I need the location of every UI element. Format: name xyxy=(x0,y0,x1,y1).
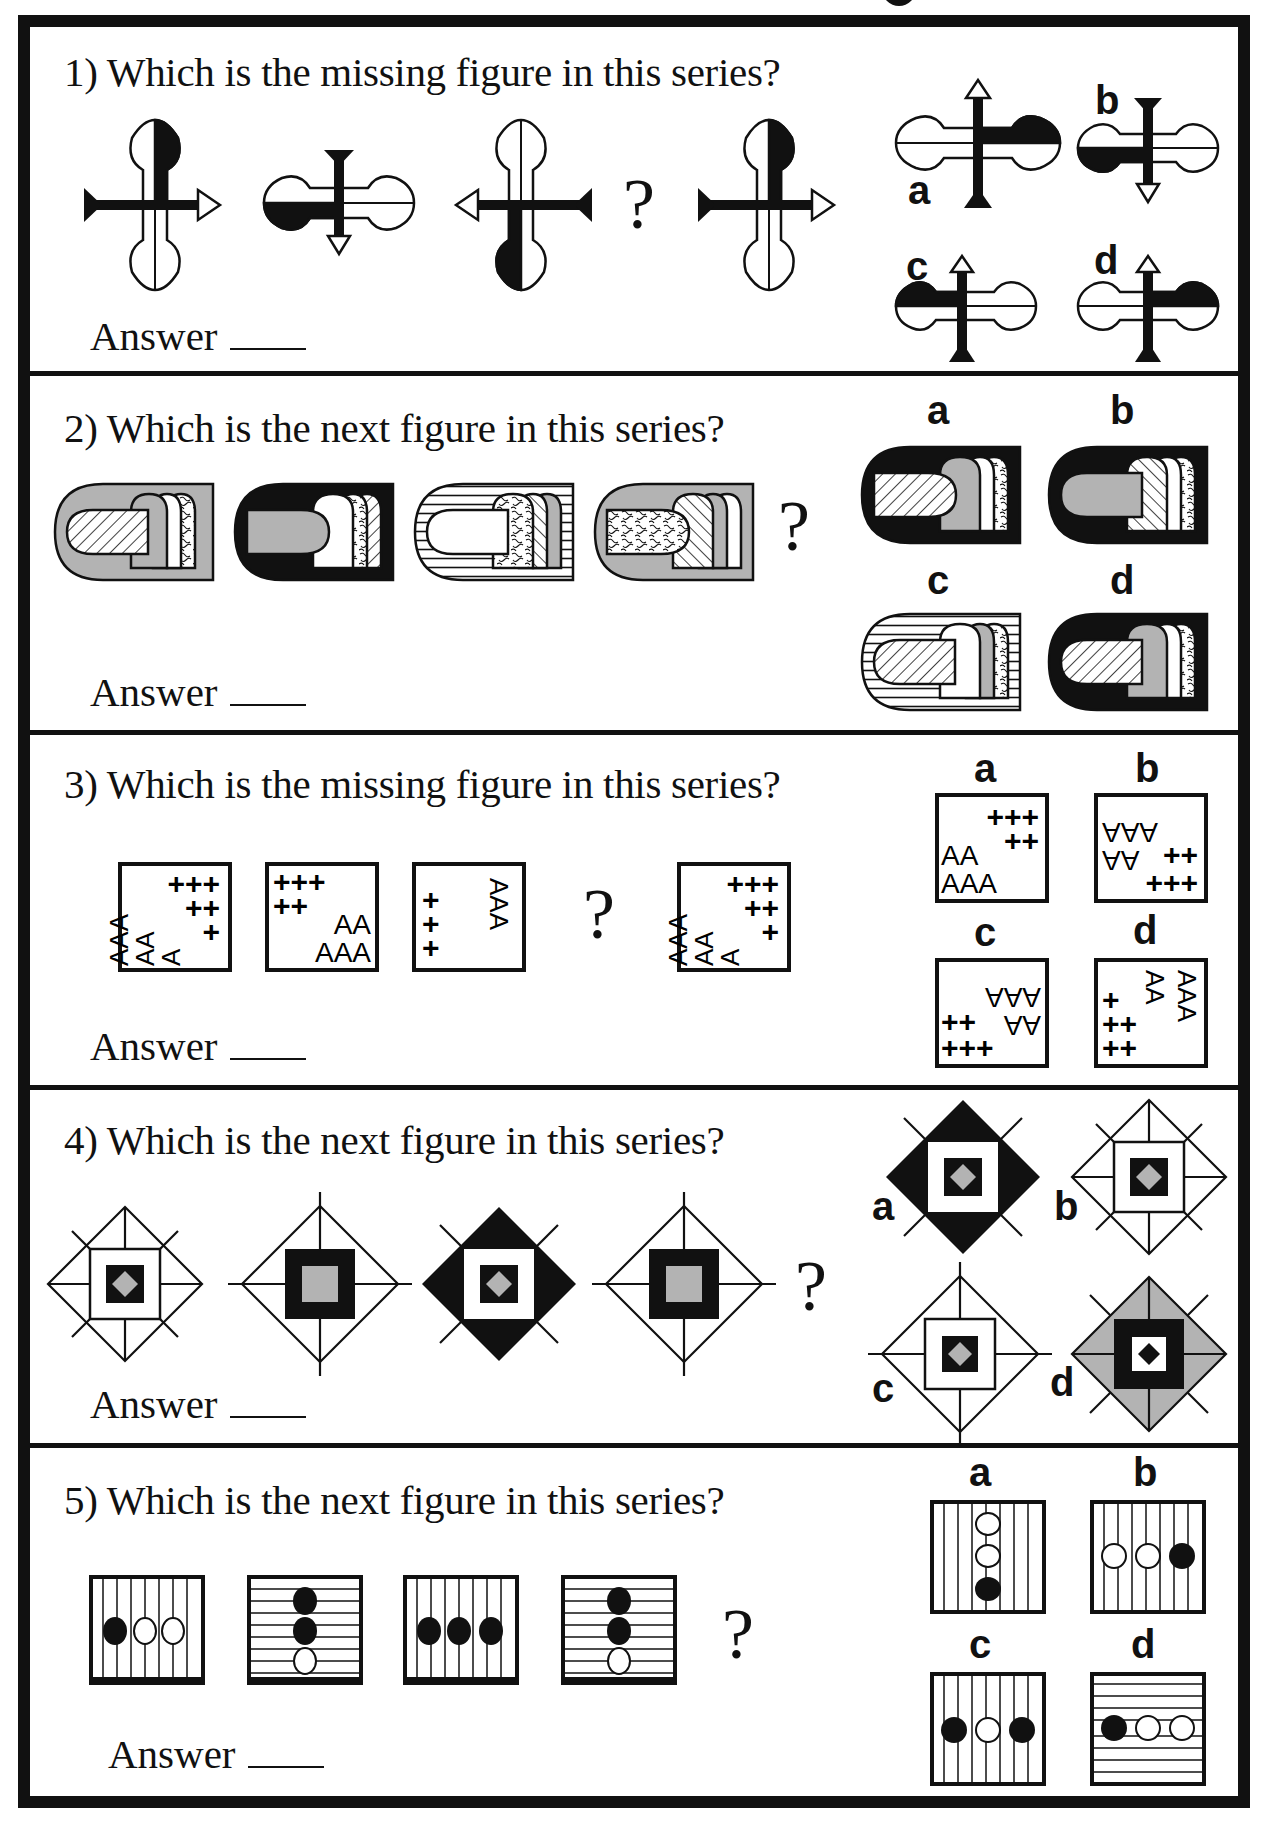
option-d[interactable] xyxy=(1090,1672,1206,1786)
answer-label: Answer xyxy=(108,1731,236,1777)
option-label-b: b xyxy=(1133,1452,1157,1492)
series-figure-4 xyxy=(593,482,755,582)
option-a[interactable] xyxy=(860,445,1022,545)
option-label-b: b xyxy=(1135,748,1159,788)
series-figure-4 xyxy=(592,1192,776,1376)
option-a[interactable] xyxy=(884,1098,1042,1256)
option-d[interactable]: + ++ ++ AA AAA xyxy=(1094,958,1208,1068)
svg-text:+++: +++ xyxy=(1145,866,1198,899)
question-text: 2) Which is the next figure in this seri… xyxy=(64,408,724,449)
svg-text:AAA: AAA xyxy=(315,937,371,968)
series-figure-1 xyxy=(53,482,215,582)
svg-text:+: + xyxy=(761,915,779,948)
svg-text:AA: AA xyxy=(1102,845,1140,876)
answer-blank[interactable] xyxy=(230,1386,306,1418)
answer-field[interactable]: Answer xyxy=(90,316,306,357)
svg-text:++: ++ xyxy=(1004,824,1039,857)
answer-field[interactable]: Answer xyxy=(108,1734,324,1775)
option-c[interactable] xyxy=(860,612,1022,712)
svg-text:++: ++ xyxy=(1102,1031,1137,1064)
series-figure-1 xyxy=(89,1575,205,1685)
series-figure-3 xyxy=(413,482,575,582)
svg-text:AA: AA xyxy=(1004,1010,1042,1041)
answer-field[interactable]: Answer xyxy=(90,672,306,713)
option-d[interactable] xyxy=(1047,612,1209,712)
series-figure-1: +++ ++ + AAA AA A xyxy=(118,862,232,972)
option-label-d: d xyxy=(1050,1362,1074,1402)
answer-blank[interactable] xyxy=(230,674,306,706)
option-d[interactable] xyxy=(1078,254,1218,364)
series-figure-2: +++ ++ AA AAA xyxy=(265,862,379,972)
answer-field[interactable]: Answer xyxy=(90,1384,306,1425)
svg-text:AA: AA xyxy=(1140,970,1170,1005)
option-b[interactable] xyxy=(1090,1500,1206,1614)
svg-text:AA: AA xyxy=(334,909,372,940)
option-b[interactable] xyxy=(1047,445,1209,545)
option-label-d: d xyxy=(1131,1624,1155,1664)
missing-figure-marker: ? xyxy=(583,878,615,950)
option-label-a: a xyxy=(927,390,949,430)
option-c[interactable]: AAA AA ++ +++ xyxy=(935,958,1049,1068)
series-figure-3 xyxy=(446,120,596,290)
svg-text:AAA: AAA xyxy=(1102,817,1158,848)
series-figure-1 xyxy=(46,1205,204,1363)
option-label-a: a xyxy=(872,1186,894,1226)
answer-blank[interactable] xyxy=(230,318,306,350)
svg-text:+: + xyxy=(422,931,440,964)
option-c[interactable] xyxy=(930,1672,1046,1786)
option-label-c: c xyxy=(969,1624,991,1664)
option-label-c: c xyxy=(974,912,996,952)
series-figure-1 xyxy=(80,120,230,290)
option-a[interactable]: +++ ++ AA AAA xyxy=(935,793,1049,903)
question-text: 3) Which is the missing figure in this s… xyxy=(64,764,781,805)
question-text: 5) Which is the next figure in this seri… xyxy=(64,1480,724,1521)
svg-text:++: ++ xyxy=(273,889,308,922)
missing-figure-marker: ? xyxy=(623,168,655,240)
answer-label: Answer xyxy=(90,313,218,359)
section-divider xyxy=(18,1443,1250,1448)
svg-text:AAA: AAA xyxy=(484,878,514,931)
option-label-d: d xyxy=(1133,910,1157,950)
series-figure-2 xyxy=(233,482,395,582)
section-divider xyxy=(18,371,1250,376)
answer-label: Answer xyxy=(90,669,218,715)
option-c[interactable] xyxy=(896,254,1036,364)
series-figure-3 xyxy=(420,1205,578,1363)
option-label-c: c xyxy=(927,560,949,600)
series-figure-4 xyxy=(561,1575,677,1685)
series-figure-5 xyxy=(694,120,844,290)
option-b[interactable] xyxy=(1078,96,1218,208)
option-a[interactable] xyxy=(930,1500,1046,1614)
series-figure-2 xyxy=(228,1192,412,1376)
answer-blank[interactable] xyxy=(230,1028,306,1060)
svg-text:AAA: AAA xyxy=(985,982,1041,1013)
question-text: 1) Which is the missing figure in this s… xyxy=(64,52,781,93)
svg-text:A: A xyxy=(156,948,186,966)
option-b[interactable]: AAA AA ++ +++ xyxy=(1094,793,1208,903)
series-figure-3: + + + AAA xyxy=(412,862,526,972)
svg-text:AA: AA xyxy=(941,840,979,871)
option-c[interactable] xyxy=(868,1262,1052,1446)
next-figure-marker: ? xyxy=(778,490,810,562)
series-figure-2 xyxy=(247,1575,363,1685)
page-title-fragment xyxy=(882,0,916,6)
option-label-b: b xyxy=(1110,390,1134,430)
answer-field[interactable]: Answer xyxy=(90,1026,306,1067)
option-label-a: a xyxy=(969,1452,991,1492)
option-label-c: c xyxy=(872,1368,894,1408)
next-figure-marker: ? xyxy=(795,1250,827,1322)
option-d[interactable] xyxy=(1070,1275,1228,1433)
option-b[interactable] xyxy=(1070,1098,1228,1256)
series-figure-2 xyxy=(264,148,414,258)
option-label-a: a xyxy=(974,748,996,788)
answer-blank[interactable] xyxy=(248,1736,324,1768)
answer-label: Answer xyxy=(90,1023,218,1069)
svg-text:A: A xyxy=(715,948,745,966)
svg-text:+: + xyxy=(202,915,220,948)
option-a[interactable] xyxy=(894,78,1064,210)
option-label-d: d xyxy=(1110,560,1134,600)
svg-text:AAA: AAA xyxy=(941,868,997,899)
next-figure-marker: ? xyxy=(722,1598,754,1670)
svg-text:+++: +++ xyxy=(941,1031,994,1064)
section-divider xyxy=(18,730,1250,735)
